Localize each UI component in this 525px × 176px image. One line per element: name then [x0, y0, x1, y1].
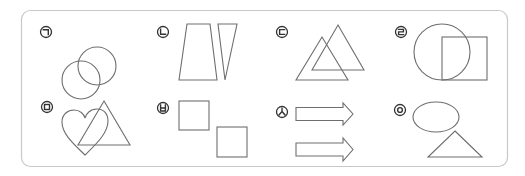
right-arrow-icon: [296, 103, 353, 125]
label-digeut-icon: [277, 27, 288, 38]
item-digeut: [277, 25, 365, 80]
figure-frame: [22, 11, 508, 167]
item-giyeok: [41, 27, 117, 100]
item-ieung: [395, 102, 483, 157]
figure-canvas: [0, 0, 525, 176]
square-icon: [217, 127, 247, 157]
label-siot-icon: [277, 107, 288, 118]
square-icon: [179, 101, 209, 130]
item-bieup: [158, 101, 248, 157]
circle-icon: [78, 47, 116, 85]
label-mieum-icon: [42, 102, 53, 113]
item-nieun: [158, 24, 238, 80]
triangle-icon: [428, 131, 482, 157]
triangle-icon: [78, 101, 130, 145]
square-icon: [442, 37, 487, 80]
triangle-icon: [218, 24, 237, 80]
item-rieul: [396, 24, 488, 80]
item-mieum: [42, 101, 131, 155]
label-ieung-icon: [395, 105, 406, 116]
heart-icon: [62, 109, 108, 155]
trapezoid-icon: [179, 24, 217, 80]
label-rieul-icon: [396, 27, 407, 38]
label-nieun-icon: [158, 27, 169, 38]
label-bieup-icon: [158, 103, 169, 114]
label-giyeok-icon: [41, 27, 52, 38]
right-arrow-icon: [296, 138, 353, 161]
ellipse-icon: [413, 102, 459, 132]
circle-icon: [62, 61, 100, 99]
item-siot: [277, 103, 354, 161]
triangle-icon: [296, 37, 348, 80]
